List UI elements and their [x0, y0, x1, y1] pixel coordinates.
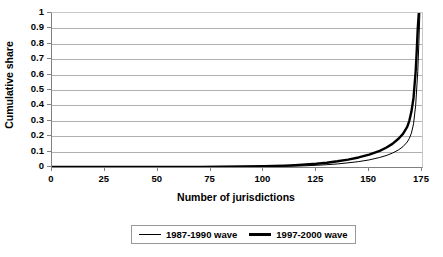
- y-axis-tick-mark: [47, 58, 51, 59]
- y-axis-tick-label: 0: [39, 161, 44, 171]
- y-axis-title: Cumulative share: [0, 0, 18, 170]
- legend-line-swatch: [139, 234, 161, 235]
- x-axis-tick-mark: [262, 167, 263, 171]
- x-axis-tick-label: 0: [48, 174, 53, 184]
- chart-container: Cumulative share 10.90.80.70.60.50.40.30…: [0, 0, 443, 257]
- y-axis-tick-label: 0.1: [31, 146, 44, 156]
- x-axis-tick-mark: [368, 167, 369, 171]
- legend-item-label: 1997-2000 wave: [276, 229, 347, 240]
- x-axis-tick-label: 150: [360, 174, 376, 184]
- legend-item: 1997-2000 wave: [249, 229, 347, 240]
- y-axis-tick-labels: 10.90.80.70.60.50.40.30.20.10: [18, 12, 48, 166]
- y-axis-tick-mark: [47, 27, 51, 28]
- x-axis-tick-label: 75: [204, 174, 215, 184]
- y-axis-tick-mark: [47, 135, 51, 136]
- y-axis-tick-label: 1: [39, 7, 44, 17]
- y-axis-tick-mark: [47, 104, 51, 105]
- series-lines: [52, 13, 422, 167]
- y-axis-tick-mark: [47, 89, 51, 90]
- x-axis-tick-label: 125: [307, 174, 323, 184]
- series-line: [52, 13, 419, 167]
- y-axis-tick-label: 0.2: [31, 130, 44, 140]
- x-axis-tick-label: 50: [151, 174, 162, 184]
- y-axis-tick-mark: [47, 151, 51, 152]
- legend-item: 1987-1990 wave: [139, 229, 237, 240]
- x-axis-tick-mark: [210, 167, 211, 171]
- x-axis-tick-mark: [421, 167, 422, 171]
- x-axis-tick-mark: [315, 167, 316, 171]
- legend-line-swatch: [249, 233, 271, 236]
- y-axis-tick-mark: [47, 12, 51, 13]
- legend-item-label: 1987-1990 wave: [166, 229, 237, 240]
- y-axis-tick-label: 0.5: [31, 84, 44, 94]
- y-axis-tick-label: 0.4: [31, 100, 44, 110]
- y-axis-tick-mark: [47, 120, 51, 121]
- x-axis-tick-mark: [51, 167, 52, 171]
- y-axis-title-text: Cumulative share: [3, 41, 15, 129]
- x-axis-title: Number of jurisdictions: [51, 191, 421, 203]
- y-axis-tick-mark: [47, 74, 51, 75]
- x-axis-tick-mark: [157, 167, 158, 171]
- y-axis-tick-label: 0.6: [31, 69, 44, 79]
- plot-area: [51, 12, 423, 168]
- y-axis-tick-label: 0.9: [31, 23, 44, 33]
- x-axis-tick-mark: [104, 167, 105, 171]
- series-line: [52, 13, 420, 167]
- chart-legend: 1987-1990 wave1997-2000 wave: [131, 225, 356, 244]
- y-axis-tick-label: 0.8: [31, 38, 44, 48]
- y-axis-tick-label: 0.3: [31, 115, 44, 125]
- x-axis-tick-label: 175: [413, 174, 429, 184]
- x-axis-tick-label: 100: [254, 174, 270, 184]
- y-axis-tick-mark: [47, 43, 51, 44]
- x-axis-tick-label: 25: [99, 174, 110, 184]
- y-axis-tick-label: 0.7: [31, 53, 44, 63]
